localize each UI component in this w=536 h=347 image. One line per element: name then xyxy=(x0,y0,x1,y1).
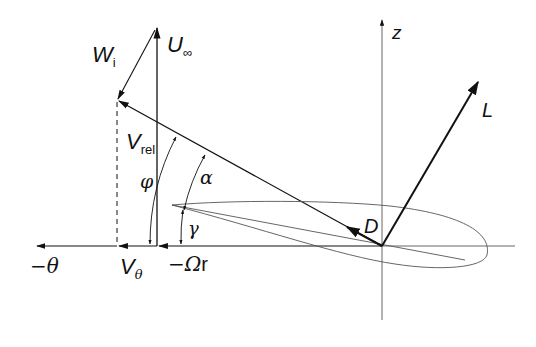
v-rel-label: Vrel xyxy=(126,131,155,156)
neg-theta-label: −θ xyxy=(30,256,59,276)
lift-label: L xyxy=(482,100,493,120)
v-theta-sub: θ xyxy=(135,267,143,282)
v-theta-main: V xyxy=(120,254,135,279)
v-rel-vector xyxy=(119,101,382,246)
u-inf-label: U∞ xyxy=(167,34,192,59)
u-inf-sub: ∞ xyxy=(183,45,192,60)
wi-sub: i xyxy=(113,55,116,70)
velocity-triangle-diagram: Wi U∞ Vrel φ α γ −θ Vθ −Ωr z L D xyxy=(0,0,536,347)
alpha-label: α xyxy=(200,168,213,187)
diagram-graphics xyxy=(0,0,536,347)
lift-vector xyxy=(382,82,478,246)
z-axis-label: z xyxy=(392,23,402,42)
v-rel-main: V xyxy=(126,129,141,154)
u-inf-main: U xyxy=(167,32,183,57)
drag-label: D xyxy=(364,216,378,236)
neg-omega-main: −Ω xyxy=(168,252,201,276)
gamma-label: γ xyxy=(188,220,199,238)
v-rel-sub: rel xyxy=(141,142,155,157)
phi-label: φ xyxy=(140,172,153,191)
neg-omega-r-sub: r xyxy=(201,253,208,275)
chord-line xyxy=(172,205,465,260)
wi-vector xyxy=(118,30,155,99)
wi-label: Wi xyxy=(92,44,116,69)
v-theta-label: Vθ xyxy=(120,256,143,281)
gamma-arc xyxy=(181,210,183,244)
wi-main: W xyxy=(92,42,113,67)
neg-omega-r-label: −Ωr xyxy=(168,254,208,274)
